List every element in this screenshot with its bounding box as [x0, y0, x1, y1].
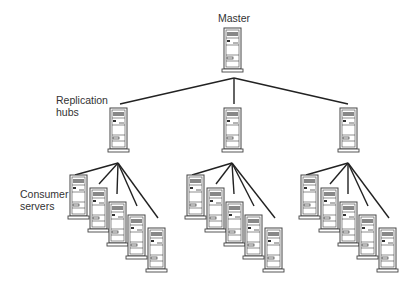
replication-diagram: [0, 0, 414, 284]
consumer-server-3-3: [338, 202, 359, 246]
connection-line: [120, 78, 234, 104]
connection-line: [232, 163, 254, 206]
hub-server-2: [222, 108, 243, 152]
consumer-server-2-1: [185, 175, 206, 219]
consumers-label-line1: Consumer: [20, 188, 68, 200]
connection-line: [348, 163, 368, 206]
master-server: [222, 28, 243, 72]
consumer-server-3-2: [319, 188, 340, 232]
hub-server-1: [108, 108, 129, 152]
consumer-server-3-5: [377, 228, 398, 272]
consumer-server-2-4: [243, 215, 264, 259]
consumer-server-1-3: [107, 202, 128, 246]
consumer-server-1-4: [126, 215, 147, 259]
consumer-server-2-3: [224, 202, 245, 246]
connection-line: [234, 78, 348, 104]
consumer-server-3-4: [357, 215, 378, 259]
consumer-server-3-1: [299, 175, 320, 219]
connection-line: [216, 163, 232, 184]
consumers-label-line2: servers: [20, 200, 54, 212]
consumer-server-2-5: [263, 228, 284, 272]
consumer-server-1-1: [68, 175, 89, 219]
consumer-server-1-2: [88, 188, 109, 232]
consumer-server-1-5: [146, 228, 167, 272]
hub-server-3: [338, 108, 359, 152]
connection-line: [306, 163, 348, 175]
consumer-server-2-2: [205, 188, 226, 232]
connection-line: [117, 163, 118, 194]
hubs-label-line2: hubs: [56, 106, 79, 118]
connection-line: [192, 163, 232, 175]
master-label: Master: [218, 12, 250, 24]
connection-line: [75, 163, 118, 175]
hubs-label-line1: Replication: [56, 94, 108, 106]
